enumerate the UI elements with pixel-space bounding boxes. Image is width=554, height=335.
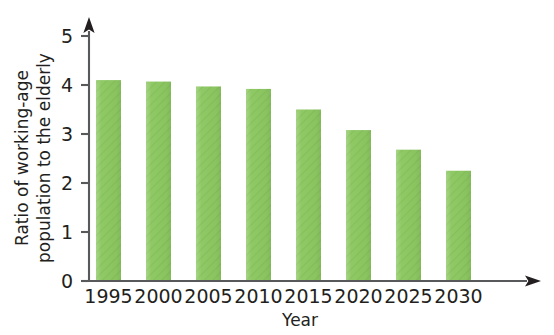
x-axis-tick-labels: 19952000200520102015202020252030 <box>84 285 482 307</box>
y-tick-label: 4 <box>61 74 73 96</box>
x-tick-label-2000: 2000 <box>134 285 182 307</box>
x-axis: 19952000200520102015202020252030 <box>84 275 541 307</box>
y-tick-label: 0 <box>61 270 73 292</box>
x-tick-label-2025: 2025 <box>384 285 432 307</box>
bar-shade-2010 <box>246 89 271 281</box>
bar-chart: 012345 19952000200520102015202020252030 … <box>0 0 554 335</box>
y-axis-title-line2: population to the elderly <box>34 53 54 263</box>
y-tick-label: 5 <box>61 25 73 47</box>
y-tick-label: 3 <box>61 123 73 145</box>
x-tick-label-2015: 2015 <box>284 285 332 307</box>
x-tick-label-2030: 2030 <box>434 285 482 307</box>
bar-shade-2005 <box>196 86 221 281</box>
bar-shade-2000 <box>146 82 171 281</box>
bar-shade-2020 <box>346 130 371 281</box>
bar-shade-2025 <box>396 150 421 281</box>
bar-shade-2015 <box>296 110 321 282</box>
x-axis-title: Year <box>281 310 318 330</box>
bar-shade-1995 <box>96 80 121 281</box>
chart-canvas: 012345 19952000200520102015202020252030 … <box>0 0 554 335</box>
y-tick-label: 2 <box>61 172 73 194</box>
x-tick-label-2005: 2005 <box>184 285 232 307</box>
y-tick-label: 1 <box>61 221 73 243</box>
x-tick-label-2020: 2020 <box>334 285 382 307</box>
x-tick-label-1995: 1995 <box>84 285 132 307</box>
x-tick-label-2010: 2010 <box>234 285 282 307</box>
y-axis-title-line1: Ratio of working-age <box>12 70 32 246</box>
bar-shade-2030 <box>446 171 471 281</box>
